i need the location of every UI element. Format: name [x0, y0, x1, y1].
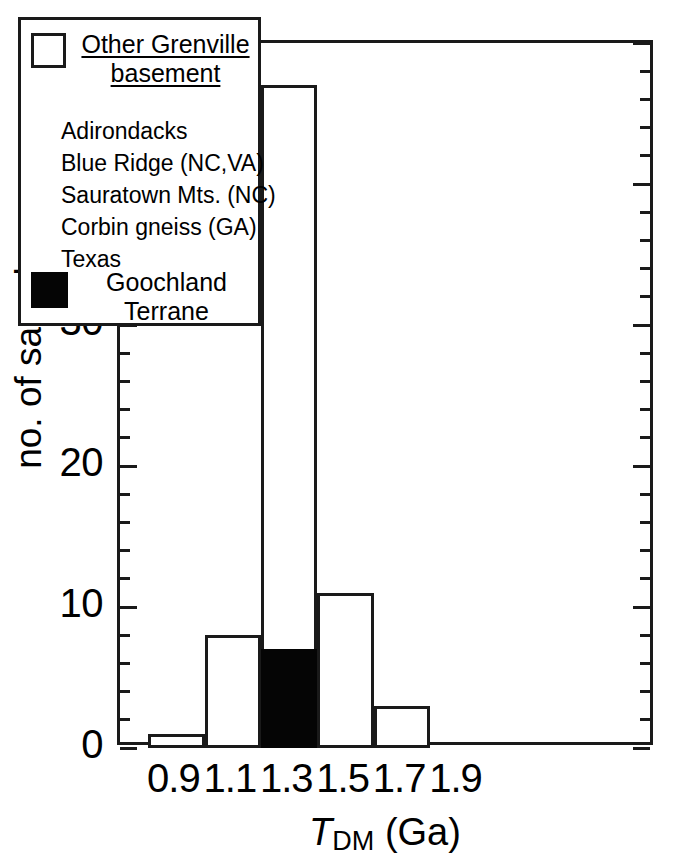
y-axis-tick: [640, 211, 650, 214]
y-axis-tick: [640, 634, 650, 637]
y-axis-tick: [120, 352, 130, 355]
y-axis-tick: [120, 408, 130, 411]
legend-header: Other Grenville basement: [31, 30, 253, 88]
legend-header-line2: basement: [111, 59, 221, 87]
legend-header-line1: Other Grenville: [81, 30, 249, 58]
legend-box: Other Grenville basement AdirondacksBlue…: [18, 17, 261, 326]
y-axis-tick: [120, 747, 137, 750]
y-axis-tick: [633, 747, 650, 750]
y-axis-tick: [120, 634, 130, 637]
y-axis-tick: [640, 493, 650, 496]
legend-footer-line2: Terrane: [124, 297, 209, 325]
y-axis-tick: [640, 352, 650, 355]
y-axis-tick: [120, 380, 130, 383]
y-axis-tick: [120, 662, 130, 665]
y-axis-tick: [120, 493, 130, 496]
y-axis-tick: [633, 324, 650, 327]
x-axis-title: TDM (Ga): [117, 812, 653, 856]
histogram-bar: [317, 593, 373, 748]
y-axis-tick: [640, 690, 650, 693]
y-axis-tick: [633, 183, 650, 186]
legend-footer-label: Goochland Terrane: [80, 268, 253, 326]
histogram-bar-filled: [261, 649, 317, 748]
x-axis-title-symbol: T: [309, 811, 332, 853]
legend-footer-line1: Goochland: [106, 268, 227, 296]
y-axis-tick: [120, 690, 130, 693]
x-axis-title-subscript: DM: [332, 826, 374, 856]
legend-header-label: Other Grenville basement: [78, 30, 253, 88]
y-axis-tick: [640, 408, 650, 411]
y-axis-tick: [640, 70, 650, 73]
y-axis-tick: [633, 42, 650, 45]
histogram-bar: [148, 734, 204, 748]
x-axis-title-unit: (Ga): [385, 811, 461, 853]
y-axis-tick: [120, 549, 130, 552]
y-axis-tick: [640, 577, 650, 580]
y-axis-tick-label: 20: [0, 442, 103, 482]
histogram-figure: no. of samples 50403020100 0.91.11.31.51…: [0, 0, 683, 865]
y-axis-tick: [640, 380, 650, 383]
y-axis-tick: [633, 606, 650, 609]
y-axis-tick: [640, 98, 650, 101]
legend-item-2: Sauratown Mts. (NC): [61, 179, 261, 211]
y-axis-tick: [120, 718, 130, 721]
y-axis-tick: [120, 465, 137, 468]
y-axis-tick-label: 0: [0, 724, 103, 764]
legend-footer: Goochland Terrane: [31, 268, 253, 326]
y-axis-tick: [120, 436, 130, 439]
histogram-bar: [374, 706, 430, 748]
y-axis-tick: [633, 465, 650, 468]
histogram-bar: [205, 635, 261, 748]
y-axis-tick: [640, 126, 650, 129]
y-axis-tick: [640, 521, 650, 524]
y-axis-tick: [640, 662, 650, 665]
legend-item-1: Blue Ridge (NC,VA): [61, 147, 261, 179]
y-axis-tick: [640, 239, 650, 242]
y-axis-tick: [640, 154, 650, 157]
filled-square-swatch-icon: [31, 272, 68, 308]
y-axis-tick: [120, 521, 130, 524]
x-axis-tick-label: 1.9: [411, 757, 501, 799]
open-square-swatch-icon: [31, 33, 66, 68]
legend-item-3: Corbin gneiss (GA): [61, 211, 261, 243]
legend-sub-items: AdirondacksBlue Ridge (NC,VA)Sauratown M…: [61, 115, 261, 275]
y-axis-tick: [640, 267, 650, 270]
y-axis-tick: [640, 295, 650, 298]
y-axis-tick: [120, 577, 130, 580]
legend-item-0: Adirondacks: [61, 115, 261, 147]
y-axis-tick: [640, 436, 650, 439]
y-axis-tick-label: 10: [0, 583, 103, 623]
y-axis-tick: [640, 549, 650, 552]
y-axis-tick: [120, 606, 137, 609]
y-axis-tick: [640, 718, 650, 721]
